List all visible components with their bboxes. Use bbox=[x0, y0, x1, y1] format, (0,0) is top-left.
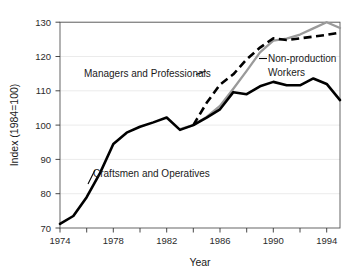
annotation-workers: Workers bbox=[268, 67, 305, 78]
x-tick-label: 1990 bbox=[263, 235, 284, 246]
y-tick-label: 90 bbox=[40, 154, 51, 165]
series-line-craftsmen-and-operatives bbox=[60, 78, 340, 223]
y-axis-ticks bbox=[56, 22, 61, 228]
y-axis-tick-labels: 130 120 110 100 90 80 70 bbox=[35, 17, 51, 234]
chart-container: 130 120 110 100 90 80 70 1974 1978 1982 … bbox=[0, 0, 361, 275]
x-axis-ticks bbox=[60, 228, 327, 233]
y-tick-label: 110 bbox=[36, 85, 51, 96]
y-tick-label: 120 bbox=[35, 51, 51, 62]
x-tick-label: 1974 bbox=[49, 235, 70, 246]
y-tick-label: 100 bbox=[35, 120, 51, 131]
x-tick-label: 1994 bbox=[316, 235, 337, 246]
x-axis-tick-labels: 1974 1978 1982 1986 1990 1994 bbox=[49, 235, 337, 246]
x-tick-label: 1978 bbox=[103, 235, 124, 246]
line-chart: 130 120 110 100 90 80 70 1974 1978 1982 … bbox=[0, 0, 361, 275]
annotation-managers-and-professionals: Managers and Professionals bbox=[84, 68, 211, 79]
x-axis-title: Year bbox=[189, 256, 211, 268]
y-axis-title: Index (1984=100) bbox=[8, 84, 20, 167]
y-tick-label: 80 bbox=[40, 188, 51, 199]
annotation-craftsmen-and-operatives: Craftsmen and Operatives bbox=[93, 168, 210, 179]
y-tick-label: 130 bbox=[35, 17, 51, 28]
x-tick-label: 1982 bbox=[156, 235, 177, 246]
y-tick-label: 70 bbox=[40, 223, 51, 234]
annotation-non-production: Non-production bbox=[268, 53, 336, 64]
x-tick-label: 1986 bbox=[209, 235, 230, 246]
